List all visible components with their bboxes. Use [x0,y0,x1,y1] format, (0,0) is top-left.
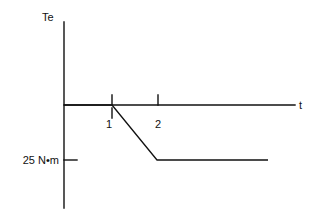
figure-container: Te t 1 2 25 N•m [0,0,318,222]
torque-plot-svg: Te t 1 2 25 N•m [0,0,318,222]
x-axis-label: t [299,99,302,111]
plot-background [0,0,318,222]
y-axis-label: Te [42,11,54,23]
y-tick-label-25: 25 N•m [23,154,59,166]
x-tick-label-1: 1 [106,118,112,130]
x-tick-label-2: 2 [155,118,161,130]
